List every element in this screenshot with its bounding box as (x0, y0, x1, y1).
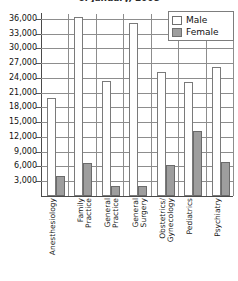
x-axis-line (41, 196, 233, 197)
y-axis-tick-label: 24,000 (9, 74, 37, 82)
category-separator (151, 14, 152, 196)
y-axis-tick-label: 12,000 (9, 133, 37, 141)
bar-female (166, 165, 175, 196)
bar-female (138, 186, 147, 196)
category-separator (96, 14, 97, 196)
bar-female (83, 163, 92, 196)
y-axis-tick-label: 18,000 (9, 103, 37, 111)
chart-title: of January, 2008 (0, 0, 238, 2)
chart-legend: Male Female (168, 11, 234, 41)
x-axis-category-label: Pediatrics (186, 198, 194, 278)
bar-male (129, 23, 138, 196)
y-axis-tick-label: 27,000 (9, 59, 37, 67)
x-axis-category-label: Obstetrics/ Gynecology (159, 198, 175, 278)
y-axis-tick-label: 21,000 (9, 89, 37, 97)
y-axis-tick-label: 36,000 (9, 15, 37, 23)
bar-chart: of January, 2008 3,0006,0009,00012,00015… (0, 0, 238, 281)
legend-label-female: Female (186, 28, 219, 37)
y-axis-tick-label: 3,000 (14, 177, 37, 185)
category-separator (233, 14, 234, 196)
y-axis-tick-label: 6,000 (14, 162, 37, 170)
bar-female (56, 176, 65, 196)
bar-male (74, 17, 83, 196)
bar-female (111, 186, 120, 196)
plot-area (41, 14, 233, 196)
legend-swatch-female-icon (172, 28, 182, 37)
y-axis-tick-label: 33,000 (9, 30, 37, 38)
legend-swatch-male-icon (172, 16, 182, 25)
bar-female (221, 162, 230, 196)
y-axis-tick-label: 15,000 (9, 118, 37, 126)
legend-item-female: Female (172, 26, 230, 38)
category-separator (123, 14, 124, 196)
bar-female (193, 131, 202, 196)
bar-male (157, 72, 166, 196)
x-axis-category-label: General Practice (104, 198, 120, 278)
category-separator (68, 14, 69, 196)
bar-male (47, 98, 56, 196)
bar-male (184, 82, 193, 196)
x-axis-category-label: General Surgery (132, 198, 148, 278)
x-axis-category-label: Anesthesiology (49, 198, 57, 278)
category-separator (206, 14, 207, 196)
x-axis-labels: AnesthesiologyFamily PracticeGeneral Pra… (41, 198, 233, 281)
x-axis-category-label: Family Practice (77, 198, 93, 278)
y-axis-tick-label: 30,000 (9, 44, 37, 52)
legend-item-male: Male (172, 14, 230, 26)
y-axis-tick-label: 9,000 (14, 148, 37, 156)
category-separator (178, 14, 179, 196)
legend-label-male: Male (186, 16, 207, 25)
x-axis-category-label: Psychiatry (214, 198, 222, 278)
bar-male (212, 67, 221, 196)
bar-male (102, 81, 111, 196)
